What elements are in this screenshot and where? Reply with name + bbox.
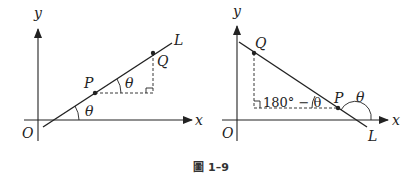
right-angle-180-minus-theta: 180° − θ <box>263 95 321 110</box>
left-y-label: y <box>33 5 43 21</box>
left-p-label: P <box>83 75 94 91</box>
left-diagram: y x O L P Q θ θ <box>22 5 203 141</box>
right-line-l <box>239 42 367 127</box>
right-origin-label: O <box>222 125 234 141</box>
left-origin-label: O <box>22 125 34 141</box>
right-p-label: P <box>333 90 344 106</box>
right-q-label: Q <box>255 35 267 51</box>
left-q-label: Q <box>157 53 169 69</box>
right-diagram: y x O L Q P 180° − θ θ <box>222 3 400 144</box>
figure-caption: 圖 1–9 <box>193 161 229 174</box>
right-y-label: y <box>232 3 242 19</box>
right-x-label: x <box>392 112 400 128</box>
left-point-q <box>151 51 155 55</box>
left-theta-at-p: θ <box>125 75 134 91</box>
left-theta-at-axis: θ <box>85 103 94 119</box>
caption-number: 1–9 <box>208 161 229 174</box>
right-point-q <box>252 51 256 55</box>
left-point-p <box>93 91 97 95</box>
figure-canvas: y x O L P Q θ θ y x O L Q P 180° − θ θ 圖… <box>0 0 417 176</box>
left-angle-arc-at-axis <box>75 106 79 120</box>
right-line-label: L <box>367 128 377 144</box>
left-x-label: x <box>195 112 203 128</box>
left-right-angle-mark <box>146 88 153 93</box>
right-right-angle-mark <box>254 101 260 108</box>
right-point-p <box>336 106 340 110</box>
left-line-label: L <box>173 32 183 48</box>
right-theta-at-axis: θ <box>356 89 365 105</box>
left-angle-arc-at-p <box>117 79 121 93</box>
caption-glyph: 圖 <box>193 161 204 174</box>
